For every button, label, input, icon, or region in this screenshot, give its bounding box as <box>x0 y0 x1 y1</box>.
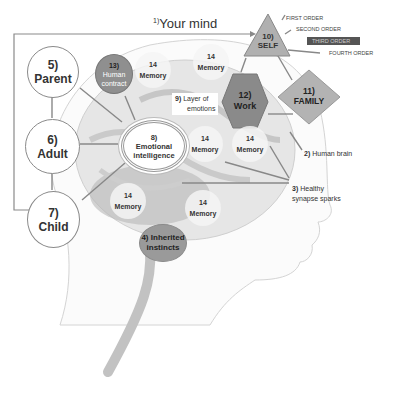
work-text: Work <box>225 101 265 112</box>
parent-label: Parent <box>34 72 71 86</box>
human-brain-text: Human brain <box>312 150 352 157</box>
memory-bubble: 14Memory <box>135 52 171 88</box>
work-label: 12) Work <box>225 90 265 112</box>
self-label: 10) SELF <box>250 32 286 50</box>
memory-label: Memory <box>192 144 219 155</box>
memory-number: 14 <box>207 51 215 62</box>
self-number: 10) <box>250 32 286 41</box>
instincts-number: 4) <box>141 233 148 242</box>
memory-number: 14 <box>149 59 157 70</box>
ei-line2: intelligence <box>133 151 174 160</box>
ei-number: 8) <box>151 133 158 142</box>
memory-label: Memory <box>237 144 264 155</box>
human-brain-label: 2) Human brain <box>304 149 352 159</box>
diagram-title: 1)Your mind <box>153 16 217 31</box>
human-contract-line2: contract <box>102 79 127 88</box>
first-order-label: FIRST ORDER <box>286 15 323 21</box>
family-number: 11) <box>285 86 333 96</box>
memory-label: Memory <box>115 201 142 212</box>
memory-bubble: 14Memory <box>232 126 268 162</box>
parent-circle: 5) Parent <box>27 46 79 98</box>
human-brain-number: 2) <box>304 150 310 157</box>
memory-bubble: 14Memory <box>193 44 229 80</box>
title-text: Your mind <box>159 16 217 31</box>
synapse-line1: Healthy <box>300 185 324 192</box>
layer-line1: Layer of <box>183 95 208 102</box>
family-text: FAMILY <box>285 96 333 106</box>
work-number: 12) <box>225 90 265 101</box>
human-contract-number: 13) <box>109 61 119 70</box>
layer-number: 9) <box>175 95 181 102</box>
parent-number: 5) <box>48 58 59 72</box>
memory-number: 14 <box>246 133 254 144</box>
instincts-line2: instincts <box>147 243 180 253</box>
memory-label: Memory <box>198 62 225 73</box>
memory-number: 14 <box>201 133 209 144</box>
memory-label: Memory <box>190 208 217 219</box>
layer-of-emotions-label: 9) Layer of emotions <box>172 93 218 115</box>
layer-line2: emotions <box>175 105 215 112</box>
child-circle: 7) Child <box>27 191 80 248</box>
emotional-intelligence-circle: 8) Emotional intelligence <box>121 120 187 172</box>
self-text: SELF <box>250 41 286 50</box>
adult-circle: 6) Adult <box>25 119 80 174</box>
human-contract-circle: 13) Human contract <box>95 54 133 94</box>
ei-line1: Emotional <box>136 142 172 151</box>
memory-bubble: 14Memory <box>187 126 223 162</box>
child-label: Child <box>39 220 69 234</box>
child-number: 7) <box>48 206 59 220</box>
human-contract-line1: Human <box>103 70 126 79</box>
fourth-order-label: FOURTH ORDER <box>329 50 373 56</box>
synapse-number: 3) <box>292 185 298 192</box>
synapse-line2: synapse sparks <box>292 195 341 202</box>
memory-label: Memory <box>140 70 167 81</box>
memory-bubble: 14Memory <box>185 190 221 226</box>
family-label: 11) FAMILY <box>285 86 333 106</box>
memory-number: 14 <box>199 197 207 208</box>
second-order-label: SECOND ORDER <box>296 26 341 32</box>
instincts-line1: Inherited <box>151 233 185 242</box>
memory-bubble: 14Memory <box>110 183 146 219</box>
memory-number: 14 <box>124 190 132 201</box>
adult-label: Adult <box>37 147 68 161</box>
synapse-label: 3) Healthy synapse sparks <box>292 184 341 204</box>
third-order-label: THIRD ORDER <box>307 37 360 45</box>
inherited-instincts-circle: 4) Inherited instincts <box>139 224 187 262</box>
adult-number: 6) <box>47 133 58 147</box>
